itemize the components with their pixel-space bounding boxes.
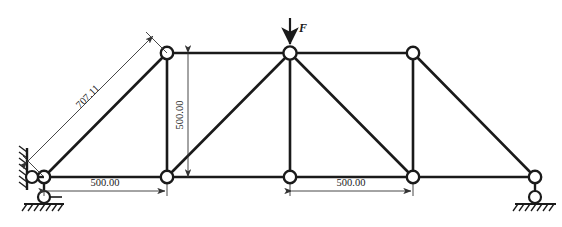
dimension-bottom-right: 500.00	[290, 177, 413, 196]
load-arrow-group: F	[290, 18, 307, 44]
load-label: F	[298, 21, 307, 35]
truss-diagram: F 707.11 500.00 500.00 500.00	[0, 0, 562, 227]
joint-apex	[283, 46, 296, 59]
dim-label-diagonal: 707.11	[74, 83, 102, 111]
dimension-diagonal-left: 707.11	[23, 32, 167, 177]
dim-label-bottom-right: 500.00	[337, 177, 366, 188]
member-diagonal-left	[167, 53, 290, 177]
wall-roller-pin	[26, 171, 38, 183]
member-left-rafter	[44, 53, 167, 177]
joint-bottom-2	[161, 171, 173, 183]
joint-bottom-3	[284, 171, 296, 183]
joint-bottom-5	[529, 171, 541, 183]
joint-top-3	[407, 47, 419, 59]
dimension-bottom-left: 500.00	[44, 177, 167, 196]
ext-line-b	[146, 32, 167, 53]
member-right-rafter	[413, 53, 535, 177]
truss-svg: F 707.11 500.00 500.00 500.00	[0, 0, 562, 227]
dim-label-bottom-left: 500.00	[91, 177, 120, 188]
support-right	[513, 183, 556, 211]
dim-label-vertical: 500.00	[174, 101, 185, 130]
member-diagonal-right	[290, 53, 413, 177]
joint-bottom-4	[407, 171, 419, 183]
ground-pin-right	[529, 191, 541, 203]
